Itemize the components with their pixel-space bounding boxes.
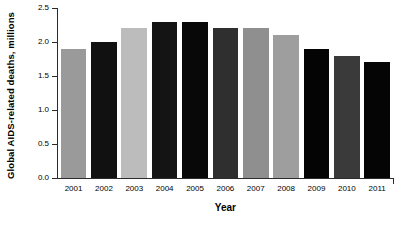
x-axis-tick-label: 2010 (332, 184, 362, 193)
x-axis-tick-label: 2005 (180, 184, 210, 193)
bar-slot (152, 8, 178, 178)
bar-2006 (213, 28, 239, 178)
bar-2008 (273, 35, 299, 178)
y-axis-tick-label: 0.5 (38, 139, 49, 148)
bar-slot (364, 8, 390, 178)
x-axis-tick-label: 2003 (119, 184, 149, 193)
y-axis-tick-label: 1.0 (38, 105, 49, 114)
x-axis-end-tick (393, 178, 394, 184)
bar-slot (182, 8, 208, 178)
bar-slot (61, 8, 87, 178)
x-axis-title: Year (58, 202, 392, 213)
y-axis-tick-label: 1.5 (38, 71, 49, 80)
x-axis-tick-labels: 2001200220032004200520062007200820092010… (58, 184, 392, 198)
x-axis-tick-label: 2001 (58, 184, 88, 193)
y-axis-tick-label: 0.0 (38, 173, 49, 182)
y-axis-title-text: Global AIDS-related deaths, millions (5, 12, 16, 179)
x-axis-tick-label: 2006 (210, 184, 240, 193)
x-axis-tick-label: 2007 (241, 184, 271, 193)
bar-2004 (152, 22, 178, 178)
bar-2007 (243, 28, 269, 178)
y-axis-tick-label: 2.5 (38, 3, 49, 12)
bar-slot (121, 8, 147, 178)
y-axis-title: Global AIDS-related deaths, millions (2, 0, 18, 190)
bar-slot (273, 8, 299, 178)
x-axis-tick-label: 2011 (362, 184, 392, 193)
plot-area (58, 8, 392, 178)
bar-slot (91, 8, 117, 178)
bar-chart-figure: Global AIDS-related deaths, millions 0.0… (0, 0, 415, 235)
bar-slot (334, 8, 360, 178)
bar-2003 (121, 28, 147, 178)
bar-2011 (364, 62, 390, 178)
x-axis-tick-label: 2002 (89, 184, 119, 193)
bar-2001 (61, 49, 87, 178)
bar-slot (304, 8, 330, 178)
bar-slot (243, 8, 269, 178)
y-axis: 0.00.51.01.52.02.5 (22, 0, 58, 195)
bar-2010 (334, 56, 360, 178)
bar-slot (213, 8, 239, 178)
x-axis-tick-label: 2009 (301, 184, 331, 193)
bar-2002 (91, 42, 117, 178)
x-axis-tick-label: 2004 (149, 184, 179, 193)
y-axis-tick-label: 2.0 (38, 37, 49, 46)
x-axis-tick-label: 2008 (271, 184, 301, 193)
bar-2005 (182, 22, 208, 178)
bar-2009 (304, 49, 330, 178)
